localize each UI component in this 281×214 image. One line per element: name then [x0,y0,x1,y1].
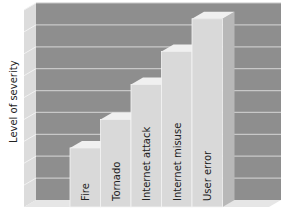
category-label: Internet misuse [172,123,183,201]
severity-bar-chart: Level of severity FireTornadoInternet at… [0,0,281,214]
category-label: Fire [80,183,91,201]
y-axis-label: Level of severity [8,60,19,143]
bar-side [223,12,235,207]
category-label: User error [202,150,213,201]
side-wall [24,3,36,207]
bar-user-error [192,12,235,207]
category-label: Internet attack [141,127,152,201]
category-label: Tornado [111,162,122,202]
